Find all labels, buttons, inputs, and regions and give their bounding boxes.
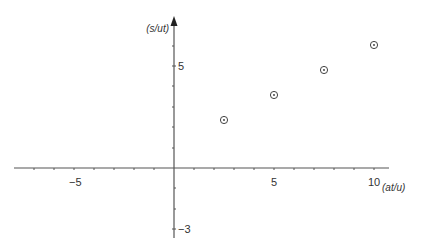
chart: −5 5 10 5 −3 (s/ut) (at/u)	[0, 0, 425, 250]
data-points	[220, 41, 377, 123]
data-point-marker-icon	[270, 91, 277, 98]
x-tick-label-neg5: −5	[69, 176, 82, 188]
x-tick-label-5: 5	[271, 176, 277, 188]
x-axis-label: (at/u)	[382, 182, 405, 193]
y-tick-label-5: 5	[178, 60, 184, 72]
data-point-marker-icon	[370, 41, 377, 48]
data-point-marker-icon	[220, 116, 227, 123]
y-tick-label-neg3: −3	[178, 223, 191, 235]
y-axis-label: (s/ut)	[146, 23, 169, 34]
x-tick-label-10: 10	[368, 176, 380, 188]
data-point-marker-icon	[320, 66, 327, 73]
y-axis-arrow-icon	[171, 16, 178, 26]
